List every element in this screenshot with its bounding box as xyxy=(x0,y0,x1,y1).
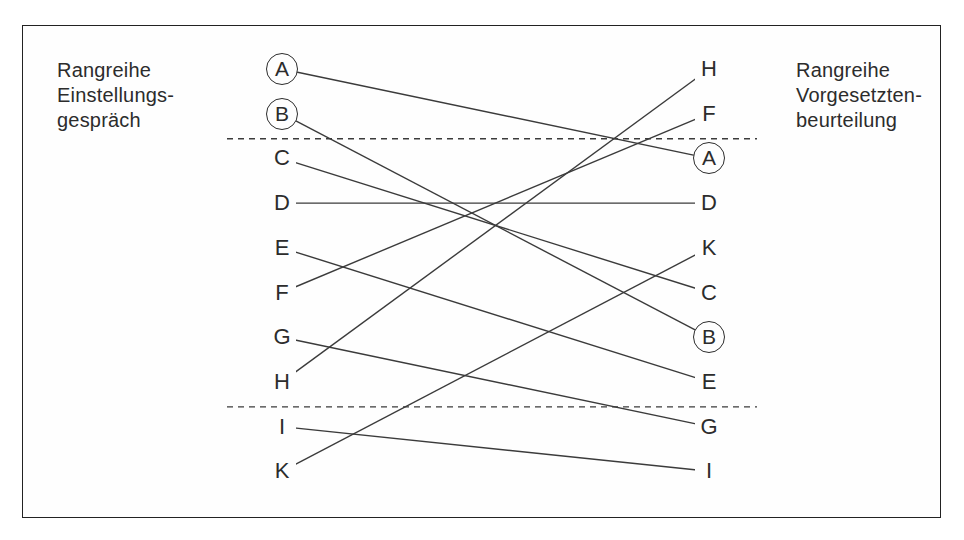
left-rank-10-K: K xyxy=(268,458,296,484)
left-rank-3-C: C xyxy=(268,145,296,171)
connection-H xyxy=(282,69,709,382)
right-rank-4-D: D xyxy=(695,190,723,216)
right-rank-1-H: H xyxy=(695,56,723,82)
left-rank-6-F: F xyxy=(268,280,296,306)
left-rank-2-B: B xyxy=(266,98,298,130)
left-rank-7-G: G xyxy=(268,324,296,350)
right-rank-7-B: B xyxy=(693,321,725,353)
left-rank-1-A: A xyxy=(266,53,298,85)
connection-E xyxy=(282,248,709,382)
right-rank-9-G: G xyxy=(695,414,723,440)
connection-K xyxy=(282,248,709,471)
connection-G xyxy=(282,337,709,426)
right-rank-10-I: I xyxy=(695,458,723,484)
right-rank-8-E: E xyxy=(695,369,723,395)
connection-I xyxy=(282,427,709,472)
left-rank-4-D: D xyxy=(268,190,296,216)
right-axis-title: Rangreihe Vorgesetzten- beurteilung xyxy=(796,58,922,133)
left-rank-8-H: H xyxy=(268,369,296,395)
right-rank-6-C: C xyxy=(695,280,723,306)
connection-A xyxy=(282,69,709,158)
left-rank-5-E: E xyxy=(268,235,296,261)
right-rank-2-F: F xyxy=(695,101,723,127)
left-axis-title: Rangreihe Einstellungs- gespräch xyxy=(57,58,174,133)
right-rank-5-K: K xyxy=(695,235,723,261)
left-rank-9-I: I xyxy=(268,414,296,440)
